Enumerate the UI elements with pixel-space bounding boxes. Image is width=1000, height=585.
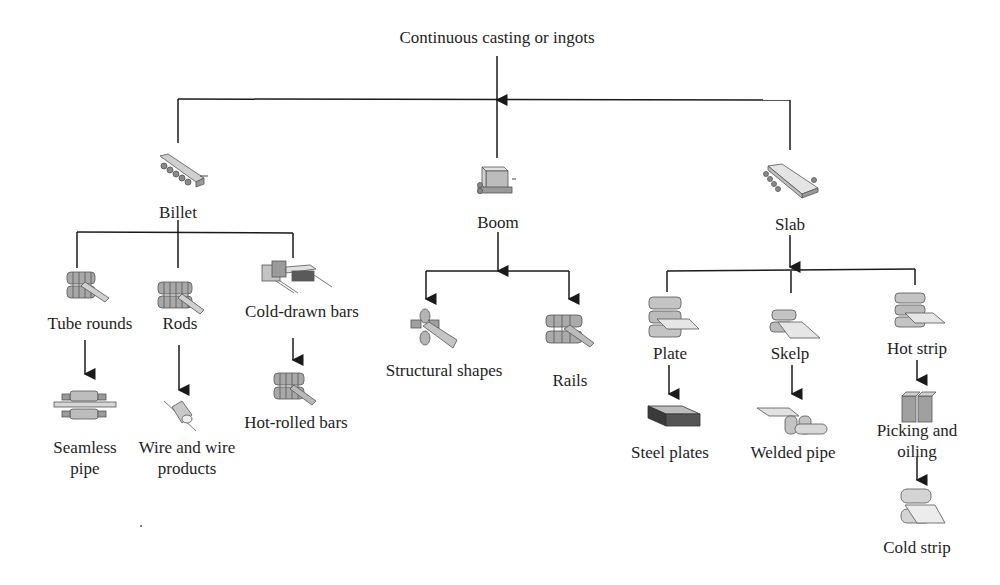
hot-strip-label: Hot strip xyxy=(872,338,962,359)
skelp-label: Skelp xyxy=(760,343,820,364)
seamless-pipe-label: Seamless pipe xyxy=(40,437,130,479)
hot-rolled-bars-label: Hot-rolled bars xyxy=(236,412,356,433)
structural-shapes-icon xyxy=(407,308,459,350)
cold-strip-icon xyxy=(899,487,947,527)
skelp-icon xyxy=(766,308,822,342)
steel-product-flow-diagram: Continuous casting or ingots Billet Boom xyxy=(0,0,1000,585)
slab-label: Slab xyxy=(760,214,820,235)
wire-products-label: Wire and wire products xyxy=(132,437,242,479)
steel-plates-icon xyxy=(644,404,702,430)
boom-label: Boom xyxy=(468,212,528,233)
welded-pipe-icon xyxy=(755,404,831,440)
welded-pipe-label: Welded pipe xyxy=(738,442,848,463)
picking-oiling-label: Picking and oiling xyxy=(862,420,972,462)
structural-shapes-label: Structural shapes xyxy=(372,360,516,381)
root-label: Continuous casting or ingots xyxy=(380,27,614,48)
billet-icon xyxy=(156,152,210,188)
plate-label: Plate xyxy=(640,343,700,364)
cold-strip-label: Cold strip xyxy=(862,537,972,558)
rods-label: Rods xyxy=(150,313,210,334)
tube-rounds-icon xyxy=(63,268,113,306)
seamless-pipe-icon xyxy=(52,389,118,423)
billet-label: Billet xyxy=(148,202,208,223)
cold-drawn-bars-icon xyxy=(258,257,338,297)
hot-strip-icon xyxy=(891,291,947,333)
steel-plates-label: Steel plates xyxy=(620,442,720,463)
hot-rolled-bars-icon xyxy=(272,371,320,407)
rails-label: Rails xyxy=(540,370,600,391)
rods-icon xyxy=(156,280,206,316)
tube-rounds-label: Tube rounds xyxy=(40,313,140,334)
rails-icon xyxy=(544,313,596,349)
plate-icon xyxy=(645,295,701,341)
boom-icon xyxy=(474,163,518,197)
slab-icon xyxy=(762,162,822,204)
connector-lines xyxy=(0,0,1000,585)
wire-products-icon xyxy=(162,397,198,433)
cold-drawn-bars-label: Cold-drawn bars xyxy=(242,301,362,322)
